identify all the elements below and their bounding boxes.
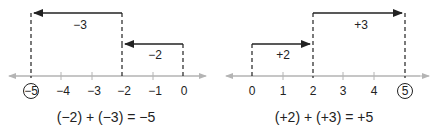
- tick-label: −3: [87, 84, 101, 98]
- right-number-line: +2 +3 0 1 2 3 4 5 (+2) + (+3) = +5: [226, 13, 429, 125]
- arrow-label: +2: [276, 48, 290, 62]
- arrow-label: −2: [148, 48, 162, 62]
- arrow-label: −3: [73, 18, 87, 32]
- tick-label: −4: [56, 84, 70, 98]
- tick-label: −5: [24, 84, 38, 98]
- tick-label: −1: [148, 84, 162, 98]
- tick-label: 1: [280, 84, 287, 98]
- equation: (−2) + (−3) = −5: [57, 109, 156, 125]
- tick-label: 4: [371, 84, 378, 98]
- tick-label: 0: [249, 84, 256, 98]
- arrow-label: +3: [354, 18, 368, 32]
- tick-label: 0: [181, 84, 188, 98]
- tick-label: 3: [340, 84, 347, 98]
- tick-label: −2: [117, 84, 131, 98]
- equation: (+2) + (+3) = +5: [275, 109, 374, 125]
- number-line-diagram: −3 −2 −5 −4 −3 −2 −1 0 (−2) + (−3) = −5 …: [0, 0, 433, 132]
- tick-label: 2: [310, 84, 317, 98]
- tick-label: 5: [402, 84, 409, 98]
- left-number-line: −3 −2 −5 −4 −3 −2 −1 0 (−2) + (−3) = −5: [9, 13, 206, 125]
